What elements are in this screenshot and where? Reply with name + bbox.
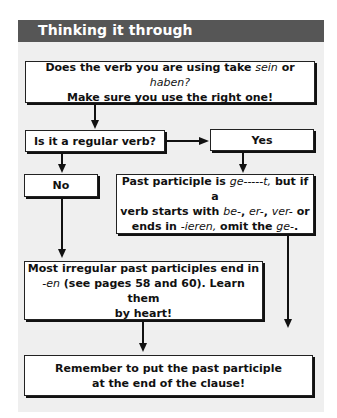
connector-line (287, 236, 289, 320)
box-sein-haben-line1: Does the verb you are using take sein or… (26, 60, 314, 90)
connector-line (61, 198, 63, 250)
box-past-participle: Past participle is ge-----t, but if a ve… (116, 174, 314, 234)
connector-line (94, 103, 96, 121)
box-remember: Remember to put the past participle at t… (24, 355, 313, 396)
arrow-down-icon (58, 164, 66, 173)
arrow-down-icon (91, 120, 99, 129)
section-title: Thinking it through (38, 22, 193, 38)
connector-line (242, 152, 244, 164)
box-sein-haben: Does the verb you are using take sein or… (25, 61, 315, 103)
box-yes: Yes (210, 129, 314, 151)
arrow-down-icon (239, 164, 247, 173)
arrow-down-icon (58, 249, 66, 258)
connector-line (142, 322, 144, 344)
box-regular-verb: Is it a regular verb? (25, 130, 165, 152)
arrow-right-icon (199, 137, 209, 145)
box-irregular: Most irregular past participles end in -… (24, 261, 263, 320)
arrow-down-icon (284, 319, 292, 328)
arrow-down-icon (139, 343, 147, 352)
connector-line (166, 140, 200, 142)
section-header: Thinking it through (18, 20, 324, 42)
box-sein-haben-line2: Make sure you use the right one! (26, 90, 314, 105)
box-no: No (24, 174, 98, 197)
